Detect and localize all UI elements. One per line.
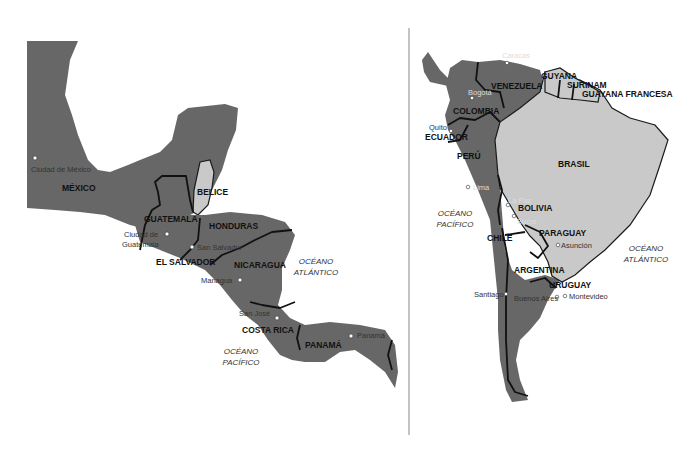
- label-belize: BELICE: [197, 187, 229, 197]
- city-dot-lima: [466, 185, 470, 189]
- label-colombia: COLOMBIA: [453, 106, 499, 116]
- city-dot-sucre: [512, 214, 516, 218]
- label-la-paz: La Paz: [508, 196, 532, 205]
- label-ciudad-de-guatemala-1: Ciudad de: [124, 230, 158, 239]
- panama-tip-land: [422, 52, 450, 86]
- label-sucre: Sucre: [517, 217, 537, 226]
- city-dot-mexico: [33, 156, 37, 160]
- label-ciudad-de-guatemala-2: Guatemala: [122, 240, 160, 249]
- label-ocean-atlantic-ca-2: ATLÁNTICO: [293, 268, 338, 277]
- city-dot-san-salvador: [190, 245, 194, 249]
- label-montevideo: Montevideo: [569, 292, 608, 301]
- label-ocean-pacific-ca-2: PACÍFICO: [222, 358, 259, 367]
- label-paraguay: PARAGUAY: [539, 228, 587, 238]
- isthmus-land: [135, 212, 398, 388]
- label-brasil: BRASIL: [558, 159, 590, 169]
- label-guatemala: GUATEMALA: [144, 214, 198, 224]
- label-guayana-francesa: GUAYANA FRANCESA: [582, 89, 673, 99]
- label-venezuela: VENEZUELA: [491, 81, 542, 91]
- label-nicaragua: NICARAGUA: [234, 260, 286, 270]
- label-ocean-atlantic-ca-1: OCÉANO: [299, 257, 334, 266]
- label-peru: PERÚ: [457, 150, 481, 161]
- label-ciudad-de-mexico: Ciudad de México: [31, 165, 91, 174]
- label-caracas: Caracas: [502, 51, 530, 60]
- label-managua: Managua: [201, 276, 233, 285]
- label-panama: PANAMÁ: [305, 340, 342, 350]
- city-dot-montevideo: [563, 294, 567, 298]
- label-bogota: Bogotá: [468, 88, 493, 97]
- central-america-map: MÉXICO BELICE GUATEMALA HONDURAS EL SALV…: [27, 41, 398, 388]
- label-san-salvador: San Salvador: [197, 243, 243, 252]
- label-asuncion: Asunción: [561, 241, 592, 250]
- city-dot-guatemala: [165, 232, 169, 236]
- label-costa-rica: COSTA RICA: [242, 325, 294, 335]
- label-el-salvador: EL SALVADOR: [156, 257, 216, 267]
- label-ocean-pacific-sa-2: PACÍFICO: [436, 220, 473, 229]
- label-mexico: MÉXICO: [62, 183, 96, 193]
- city-dot-santiago: [504, 292, 508, 296]
- label-quito: Quito: [429, 123, 447, 132]
- label-santiago: Santiago: [474, 290, 504, 299]
- label-ocean-atlantic-sa-2: ATLÁNTICO: [623, 255, 668, 264]
- label-honduras: HONDURAS: [209, 221, 258, 231]
- city-dot-managua: [238, 278, 242, 282]
- label-lima: Lima: [473, 183, 490, 192]
- city-dot-asuncion: [556, 243, 560, 247]
- label-panama-city: Panamá: [357, 331, 386, 340]
- city-dot-san-jose: [275, 316, 279, 320]
- label-ocean-pacific-sa-1: OCÉANO: [438, 209, 473, 218]
- label-ecuador: ECUADOR: [425, 132, 468, 142]
- label-ocean-pacific-ca-1: OCÉANO: [224, 347, 259, 356]
- city-dot-panama: [349, 334, 353, 338]
- map-canvas: MÉXICO BELICE GUATEMALA HONDURAS EL SALV…: [0, 0, 695, 461]
- label-ocean-atlantic-sa-1: OCÉANO: [629, 244, 664, 253]
- label-uruguay: URUGUAY: [549, 280, 592, 290]
- label-san-jose: San José: [239, 309, 270, 318]
- label-buenos-aires: Buenos Aires: [514, 294, 558, 303]
- south-america-map: GUYANA SURINAM GUAYANA FRANCESA VENEZUEL…: [422, 51, 673, 402]
- label-argentina: ARGENTINA: [514, 265, 565, 275]
- city-dot-caracas: [505, 61, 509, 65]
- label-chile: CHILE: [487, 233, 513, 243]
